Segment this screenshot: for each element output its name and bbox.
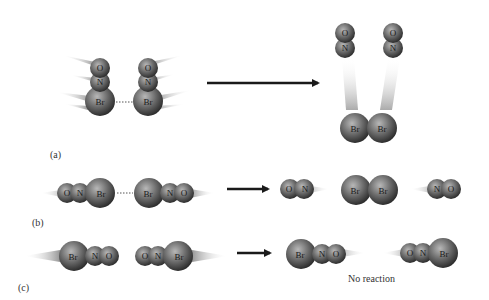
- atom-label-n: N: [97, 77, 104, 87]
- molecule-brno-product: Br N O: [286, 239, 346, 269]
- atom-label-n: N: [342, 43, 349, 53]
- molecule-brno-left: Br N O: [59, 241, 119, 271]
- atom-label-n: N: [77, 188, 84, 198]
- atom-label-n: N: [167, 188, 174, 198]
- motion-streaks: [56, 55, 192, 110]
- motion-streaks: [24, 250, 228, 262]
- molecule-onbr-right: O N Br: [135, 241, 193, 271]
- atom-label-br: Br: [351, 124, 360, 134]
- molecule-onbr-product: O N Br: [400, 238, 458, 268]
- motion-streaks: [336, 248, 410, 258]
- molecule-no-right: O N: [383, 23, 403, 58]
- atom-label-br: Br: [97, 189, 106, 199]
- molecule-no-product-left: O N: [280, 179, 314, 199]
- atom-label-o: O: [286, 184, 293, 194]
- atom-label-o: O: [181, 188, 188, 198]
- atom-label-o: O: [142, 251, 149, 261]
- atom-label-o: O: [106, 251, 113, 261]
- atom-label-br: Br: [379, 186, 388, 196]
- atom-label-o: O: [407, 248, 414, 258]
- atom-label-n: N: [145, 77, 152, 87]
- atom-label-n: N: [390, 43, 397, 53]
- panel-label-c: (c): [18, 282, 29, 294]
- atom-label-o: O: [333, 249, 340, 259]
- molecule-no-left: O N: [335, 23, 355, 58]
- atom-label-n: N: [92, 251, 99, 261]
- molecule-br2-product: Br Br: [341, 175, 398, 205]
- molecule-onbr-left: O N Br: [85, 58, 115, 116]
- panel-label-a: (a): [50, 149, 61, 161]
- molecule-brno-right: Br N O: [134, 178, 194, 208]
- atom-label-br: Br: [144, 189, 153, 199]
- atom-label-o: O: [342, 28, 349, 38]
- atom-label-n: N: [434, 184, 441, 194]
- atom-label-n: N: [155, 251, 162, 261]
- panel-label-b: (b): [32, 217, 44, 229]
- panel-a: O N Br O N Br O N O: [50, 23, 403, 161]
- atom-label-o: O: [145, 63, 152, 73]
- atom-label-br: Br: [351, 186, 360, 196]
- molecule-onbr-left: O N Br: [57, 178, 115, 208]
- atom-label-br: Br: [96, 97, 105, 107]
- motion-streaks: [342, 58, 400, 110]
- atom-label-br: Br: [296, 250, 305, 260]
- atom-label-br: Br: [144, 97, 153, 107]
- molecule-onbr-right: O N Br: [133, 58, 163, 116]
- atom-label-n: N: [420, 248, 427, 258]
- molecule-br2: Br Br: [340, 113, 397, 143]
- panel-c: Br N O O N Br Br N O: [18, 238, 458, 294]
- atom-label-o: O: [64, 188, 71, 198]
- atom-label-o: O: [97, 63, 104, 73]
- molecule-no-product-right: N O: [427, 179, 461, 199]
- atom-label-br: Br: [378, 124, 387, 134]
- atom-label-n: N: [319, 249, 326, 259]
- atom-label-o: O: [390, 28, 397, 38]
- panel-b: O N Br Br N O O N Br Br: [32, 175, 461, 229]
- atom-label-br: Br: [175, 252, 184, 262]
- atom-label-br: Br: [440, 249, 449, 259]
- reaction-diagram: O N Br O N Br O N O: [0, 0, 489, 300]
- atom-label-br: Br: [69, 252, 78, 262]
- atom-label-n: N: [302, 184, 309, 194]
- no-reaction-note: No reaction: [348, 273, 395, 284]
- atom-label-o: O: [448, 184, 455, 194]
